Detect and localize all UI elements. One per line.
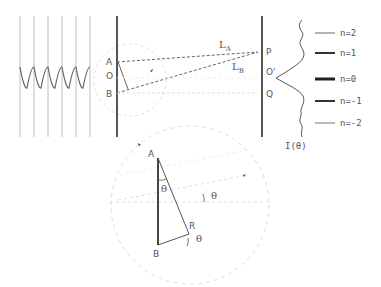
screen-label-q: Q xyxy=(266,89,273,99)
angle-arc-top xyxy=(158,179,166,180)
screen-label-p: P xyxy=(266,47,272,57)
label-la: LA xyxy=(219,39,232,53)
angle-arc-ray xyxy=(203,194,204,202)
angle-arc-bottom xyxy=(187,238,188,246)
inset-label-a: A xyxy=(148,149,155,159)
inset-label-b: B xyxy=(153,249,159,259)
inset-label-r: R xyxy=(189,221,195,231)
ray-lb xyxy=(117,52,258,93)
incident-wavefronts xyxy=(20,16,90,137)
inset-label-theta-ray: θ xyxy=(211,190,217,201)
inset-label-theta-bottom: θ xyxy=(196,233,202,244)
slit-label-o: O xyxy=(106,71,113,81)
screen-label-o-prime: O' xyxy=(266,67,276,77)
order-nm2-label: n=-2 xyxy=(340,118,362,128)
slit-label-a: A xyxy=(106,57,113,67)
slit-zoom-circle xyxy=(94,44,166,116)
inset-circle xyxy=(111,126,269,284)
slit-label-b: B xyxy=(106,89,112,99)
order-n1-label: n=1 xyxy=(340,48,356,58)
inset-ray-upper xyxy=(120,150,248,175)
inset-label-theta-top: θ xyxy=(161,183,167,194)
order-n2-label: n=2 xyxy=(340,28,356,38)
order-markers: n=2 n=1 n=0 n=-1 n=-2 xyxy=(315,28,362,128)
slit-perpendicular xyxy=(118,62,128,89)
double-slit-diagram: A O B LA LB P O' Q I(θ) n=2 n=1 n=0 n=-1… xyxy=(0,0,381,287)
inset-ray xyxy=(118,175,248,200)
inset-side-ar xyxy=(158,158,189,234)
incident-sine-wave xyxy=(20,67,90,88)
label-lb: LB xyxy=(232,61,244,75)
order-n0-label: n=0 xyxy=(340,74,356,84)
order-nm1-label: n=-1 xyxy=(340,96,362,106)
direction-arrow-icon xyxy=(150,69,153,72)
inset-ray-arrow-icon xyxy=(243,174,246,177)
inset-side-br xyxy=(158,234,189,245)
intensity-curve xyxy=(276,20,304,137)
intensity-label: I(θ) xyxy=(285,141,307,151)
